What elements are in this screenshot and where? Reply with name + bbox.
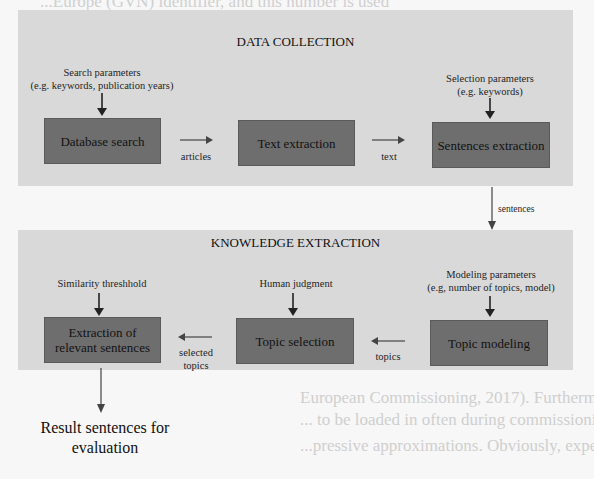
result-sentences-output: Result sentences for evaluation xyxy=(20,418,190,458)
selected-topics-label: selected topics xyxy=(174,346,218,372)
background-text-line: ...pressive approximations. Obviously, e… xyxy=(300,436,594,455)
arrow-down-icon xyxy=(96,93,108,117)
selection-parameters-example: (e.g. keywords) xyxy=(430,85,550,98)
text-extraction-box: Text extraction xyxy=(238,120,355,166)
data-collection-title: DATA COLLECTION xyxy=(18,34,573,50)
arrow-down-icon xyxy=(484,296,496,318)
extraction-relevant-sentences-line1: Extraction of xyxy=(68,325,136,340)
sentences-label: sentences xyxy=(498,203,548,216)
topic-modeling-label: Topic modeling xyxy=(448,336,530,351)
result-line2: evaluation xyxy=(20,438,190,458)
arrow-down-icon xyxy=(287,293,299,317)
selection-parameters-title: Selection parameters xyxy=(430,72,550,85)
topic-selection-box: Topic selection xyxy=(236,318,354,364)
arrow-left-icon xyxy=(371,336,405,346)
search-parameters-example: (e.g. keywords, publication years) xyxy=(22,79,182,92)
arrow-down-icon xyxy=(93,293,105,317)
selection-parameters-label: Selection parameters (e.g. keywords) xyxy=(430,72,550,98)
background-text-line: European Commissioning, 2017). Furthermo… xyxy=(300,388,594,407)
arrow-right-icon xyxy=(180,135,214,145)
database-search-box: Database search xyxy=(44,118,161,164)
text-label: text xyxy=(372,150,406,163)
selected-topics-line2: topics xyxy=(174,359,218,372)
articles-label: articles xyxy=(176,150,216,163)
topics-label: topics xyxy=(368,350,408,363)
sentences-extraction-label: Sentences extraction xyxy=(437,138,544,153)
extraction-relevant-sentences-line2: relevant sentences xyxy=(55,340,150,355)
topic-selection-label: Topic selection xyxy=(256,334,335,349)
search-parameters-label: Search parameters (e.g. keywords, public… xyxy=(22,66,182,92)
search-parameters-title: Search parameters xyxy=(22,66,182,79)
arrow-down-icon xyxy=(486,187,498,231)
selected-topics-line1: selected xyxy=(174,346,218,359)
modeling-parameters-label: Modeling parameters (e.g, number of topi… xyxy=(416,268,566,294)
arrow-down-icon xyxy=(95,368,107,414)
arrow-left-icon xyxy=(178,332,212,342)
modeling-parameters-example: (e.g, number of topics, model) xyxy=(416,281,566,294)
result-line1: Result sentences for xyxy=(20,418,190,438)
human-judgment-label: Human judgment xyxy=(246,277,346,290)
modeling-parameters-title: Modeling parameters xyxy=(416,268,566,281)
similarity-threshold-label: Similarity threshhold xyxy=(44,277,160,290)
extraction-relevant-sentences-box: Extraction of relevant sentences xyxy=(44,317,161,363)
arrow-down-icon xyxy=(484,98,496,120)
background-text-line: ... to be loaded in often during commiss… xyxy=(300,410,594,429)
text-extraction-label: Text extraction xyxy=(257,136,335,151)
knowledge-extraction-title: KNOWLEDGE EXTRACTION xyxy=(18,235,573,251)
sentences-extraction-box: Sentences extraction xyxy=(432,122,550,168)
arrow-right-icon xyxy=(372,135,406,145)
topic-modeling-box: Topic modeling xyxy=(430,320,548,366)
database-search-label: Database search xyxy=(60,134,144,149)
